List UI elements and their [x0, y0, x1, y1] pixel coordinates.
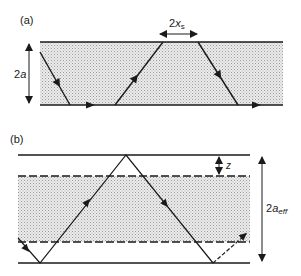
waveguide-ray-diagram: (a) 2a 2xs (b)	[0, 0, 301, 276]
penetration-label: z	[225, 160, 231, 171]
shift-label-a: 2xs	[169, 17, 185, 31]
effective-width-label: 2aeff	[266, 202, 288, 216]
panel-b: (b) z 2aeff	[10, 133, 288, 263]
height-label-a: 2a	[14, 68, 26, 80]
panel-b-label: (b)	[10, 133, 23, 145]
core-region-b	[18, 176, 250, 242]
core-region-a	[40, 42, 283, 105]
panel-a-label: (a)	[20, 14, 33, 26]
panel-a: (a) 2a 2xs	[14, 14, 283, 109]
